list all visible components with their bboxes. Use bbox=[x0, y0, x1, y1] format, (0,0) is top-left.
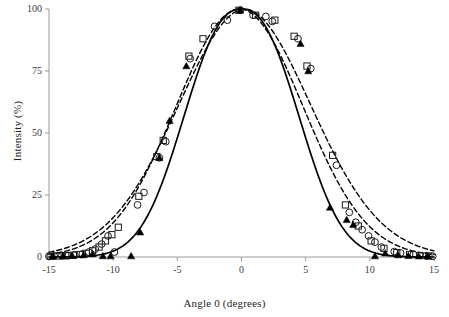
x-tick-label: -5 bbox=[157, 265, 197, 275]
marker-open-circle bbox=[187, 55, 194, 62]
marker-open-circle bbox=[333, 162, 340, 169]
marker-filled-triangle bbox=[326, 204, 333, 210]
data-markers bbox=[46, 7, 437, 260]
x-tick-label: 5 bbox=[286, 265, 326, 275]
curve-solid-fit bbox=[49, 9, 434, 257]
marker-open-circle bbox=[359, 226, 366, 233]
marker-open-square bbox=[342, 202, 348, 208]
marker-open-circle bbox=[162, 138, 169, 145]
x-tick-label: 10 bbox=[350, 265, 390, 275]
marker-open-circle bbox=[211, 23, 218, 30]
marker-open-circle bbox=[134, 202, 141, 209]
x-tick-label: -10 bbox=[93, 265, 133, 275]
marker-open-circle bbox=[269, 18, 276, 25]
marker-open-circle bbox=[372, 239, 379, 246]
x-tick-label: 15 bbox=[414, 265, 449, 275]
chart-figure: 0255075100 -15-10-5051015 Angle 0 (degre… bbox=[0, 0, 449, 317]
fitted-curves bbox=[49, 9, 434, 257]
marker-open-circle bbox=[224, 17, 231, 24]
marker-filled-triangle bbox=[183, 62, 190, 68]
marker-open-circle bbox=[262, 13, 269, 20]
marker-filled-triangle bbox=[343, 216, 350, 222]
axis-lines bbox=[45, 9, 434, 261]
marker-open-circle bbox=[111, 249, 118, 256]
curve-dashed-fit-2 bbox=[49, 9, 434, 252]
marker-open-circle bbox=[105, 233, 112, 240]
marker-open-circle bbox=[346, 209, 353, 216]
marker-open-circle bbox=[378, 244, 385, 251]
y-axis-title: Intensity (%) bbox=[11, 76, 23, 186]
y-tick-label: 25 bbox=[10, 190, 42, 200]
marker-open-circle bbox=[250, 12, 257, 19]
marker-open-square bbox=[115, 224, 121, 230]
marker-open-circle bbox=[365, 233, 372, 240]
x-axis-title: Angle 0 (degrees) bbox=[0, 297, 449, 309]
x-tick-label: 0 bbox=[222, 265, 262, 275]
x-tick-label: -15 bbox=[29, 265, 69, 275]
marker-open-square bbox=[200, 36, 206, 42]
marker-filled-triangle bbox=[128, 252, 135, 258]
y-tick-label: 75 bbox=[10, 66, 42, 76]
y-tick-label: 100 bbox=[10, 4, 42, 14]
y-tick-label: 0 bbox=[10, 252, 42, 262]
